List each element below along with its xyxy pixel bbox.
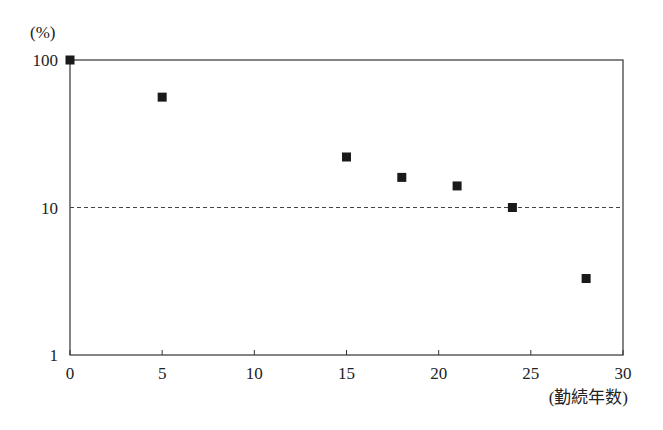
y-axis-ticks: 110100 bbox=[33, 51, 59, 365]
data-point-square bbox=[342, 152, 351, 161]
x-tick-label: 30 bbox=[615, 364, 632, 383]
data-point-square bbox=[453, 181, 462, 190]
x-tick-label: 10 bbox=[246, 364, 263, 383]
data-point-square bbox=[397, 173, 406, 182]
x-tick-label: 5 bbox=[158, 364, 167, 383]
chart: 051015202530 110100 (%) (勤続年数) bbox=[0, 0, 663, 430]
data-point-square bbox=[582, 274, 591, 283]
data-points bbox=[66, 56, 591, 284]
x-axis-label: (勤続年数) bbox=[549, 388, 628, 407]
y-tick-label: 1 bbox=[50, 346, 59, 365]
x-tick-label: 0 bbox=[66, 364, 75, 383]
x-tick-label: 25 bbox=[522, 364, 539, 383]
data-point-square bbox=[508, 203, 517, 212]
y-axis-label: (%) bbox=[30, 23, 55, 42]
x-tick-label: 15 bbox=[338, 364, 355, 383]
y-tick-label: 100 bbox=[33, 51, 59, 70]
y-tick-label: 10 bbox=[41, 199, 58, 218]
data-point-square bbox=[66, 56, 75, 65]
data-point-square bbox=[158, 93, 167, 102]
x-tick-label: 20 bbox=[430, 364, 447, 383]
